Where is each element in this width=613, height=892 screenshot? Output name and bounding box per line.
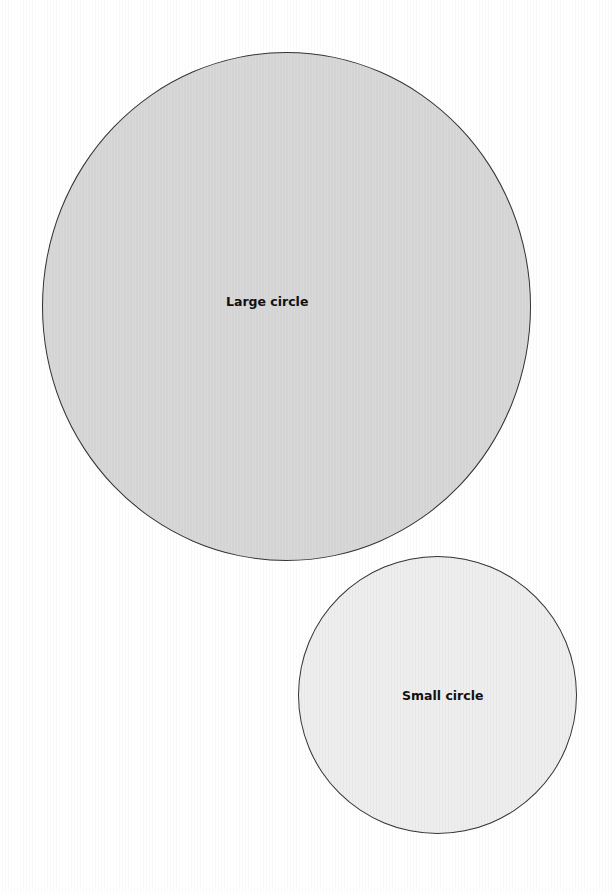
large-circle-label: Large circle bbox=[226, 294, 308, 309]
small-circle: Small circle bbox=[298, 556, 577, 834]
small-circle-label: Small circle bbox=[402, 688, 483, 703]
large-circle: Large circle bbox=[42, 52, 531, 561]
